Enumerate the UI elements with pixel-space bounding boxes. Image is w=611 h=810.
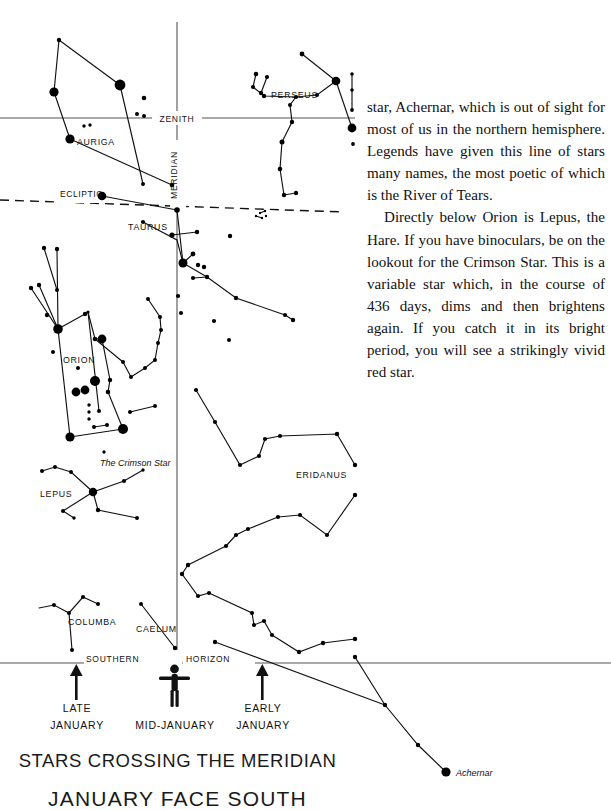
constellation-name-labels: AURIGA PERSEUS TAURUS ORION LEPUS ERIDAN… — [40, 90, 347, 634]
early-january-line1: EARLY — [222, 700, 304, 717]
early-january-arrow — [256, 664, 269, 700]
chart-title: STARS CROSSING THE MERIDIAN — [0, 750, 355, 772]
mid-january-line2: MID-JANUARY — [122, 717, 228, 734]
zenith-label: ZENITH — [160, 114, 195, 124]
observer-figure-icon — [159, 665, 190, 707]
ecliptic-label: ECLIPTIC — [60, 189, 103, 199]
time-marker-early-january: EARLY JANUARY — [222, 700, 304, 734]
label-orion: ORION — [63, 355, 95, 365]
early-january-line2: JANUARY — [222, 717, 304, 734]
star-chart: ZENITH MERIDIAN ECLIPTIC SOUTHERN HORIZO… — [0, 0, 355, 803]
time-marker-late-january: LATE JANUARY — [36, 700, 118, 734]
label-taurus: TAURUS — [128, 222, 168, 232]
late-january-line2: JANUARY — [36, 717, 118, 734]
horizon-label-horizon: HORIZON — [186, 654, 230, 664]
late-january-arrow — [70, 664, 83, 700]
label-columba: COLUMBA — [68, 617, 116, 627]
label-perseus: PERSEUS — [271, 90, 318, 100]
achernar-label: Achernar — [455, 768, 494, 778]
label-eridanus: ERIDANUS — [296, 470, 347, 480]
paragraph-2: Directly below Orion is Lepus, the Hare.… — [367, 206, 605, 383]
horizon-label-southern: SOUTHERN — [86, 654, 139, 664]
label-lepus: LEPUS — [40, 489, 72, 499]
time-marker-mid-january: MID-JANUARY — [122, 717, 228, 734]
achernar-star — [441, 767, 450, 776]
late-january-line1: LATE — [36, 700, 118, 717]
chart-subtitle: JANUARY FACE SOUTH — [0, 787, 355, 810]
body-text-column: star, Achernar, which is out of sight fo… — [367, 96, 605, 383]
label-auriga: AURIGA — [77, 137, 115, 147]
label-caelum: CAELUM — [136, 624, 177, 634]
time-marker-arrows — [70, 664, 269, 700]
paragraph-1: star, Achernar, which is out of sight fo… — [367, 96, 605, 206]
meridian-label: MERIDIAN — [169, 151, 179, 199]
crimson-star-label: The Crimson Star — [100, 458, 172, 468]
